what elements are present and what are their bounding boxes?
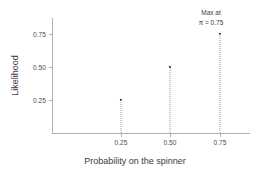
y-axis-title: Likelihood	[8, 18, 22, 133]
y-tick-label-1: 0.50	[33, 64, 46, 71]
x-tick-mark-0	[121, 134, 122, 137]
x-tick-label-2: 0.75	[213, 139, 226, 146]
y-tick-mark-0	[49, 100, 52, 101]
x-tick-mark-2	[220, 134, 221, 137]
y-tick-label-0: 0.25	[33, 97, 46, 104]
max-annotation-line-2: π = 0.75	[178, 18, 244, 28]
stem-line-1	[170, 67, 172, 133]
max-annotation-line-1: Max at	[178, 8, 244, 18]
y-axis-spine	[52, 18, 53, 133]
likelihood-chart-figure: 0.25 0.50 0.75 0.25 0.50 0.75 Max at π =…	[0, 0, 270, 177]
x-axis-title: Probability on the spinner	[0, 156, 270, 166]
stem-line-0	[121, 100, 123, 133]
x-tick-label-0: 0.25	[114, 139, 127, 146]
y-tick-label-2: 0.75	[33, 31, 46, 38]
stem-line-2	[220, 34, 222, 133]
y-tick-mark-1	[49, 67, 52, 68]
max-annotation: Max at π = 0.75	[178, 8, 244, 27]
y-tick-mark-2	[49, 34, 52, 35]
x-tick-label-1: 0.50	[163, 139, 176, 146]
x-tick-mark-1	[170, 134, 171, 137]
